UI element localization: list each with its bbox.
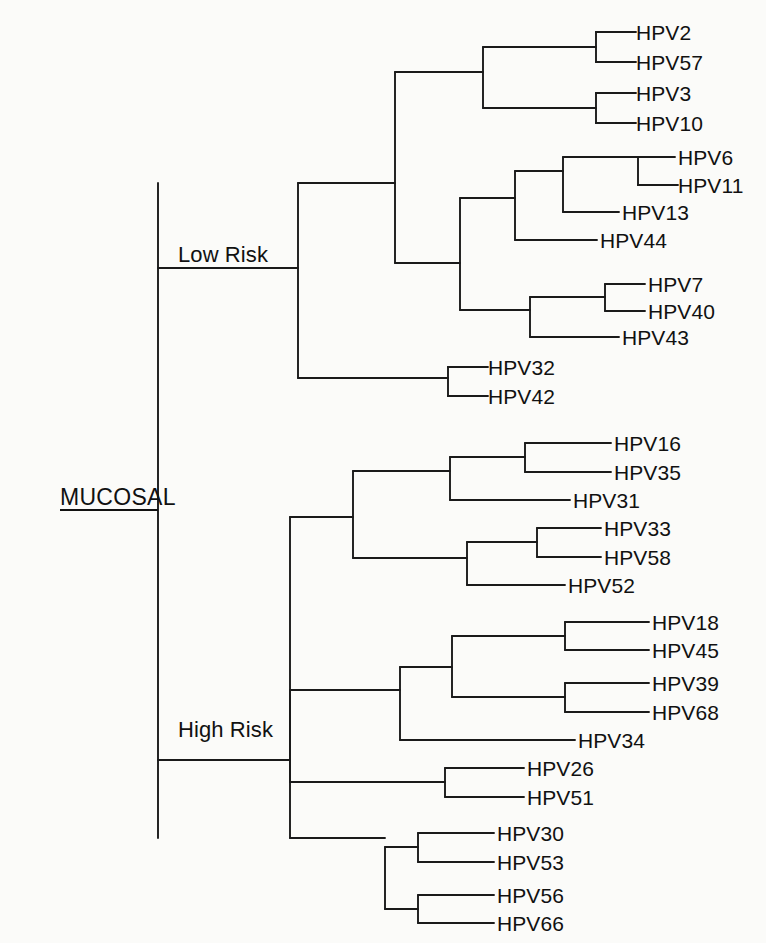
leaf-label: HPV32 bbox=[488, 357, 555, 378]
node-label-low-risk: Low Risk bbox=[178, 244, 268, 266]
node-label-high-risk: High Risk bbox=[178, 719, 273, 741]
leaf-label: HPV16 bbox=[614, 433, 681, 454]
leaf-label: HPV39 bbox=[652, 673, 719, 694]
leaf-label: HPV68 bbox=[652, 702, 719, 723]
leaf-label: HPV40 bbox=[648, 301, 715, 322]
leaf-label: HPV13 bbox=[622, 202, 689, 223]
leaf-label: HPV51 bbox=[527, 787, 594, 808]
leaf-label: HPV31 bbox=[573, 490, 640, 511]
leaf-label: HPV45 bbox=[652, 640, 719, 661]
leaf-label: HPV53 bbox=[497, 852, 564, 873]
leaf-label: HPV35 bbox=[614, 462, 681, 483]
leaf-label: HPV43 bbox=[622, 327, 689, 348]
phylogenetic-tree-figure: MUCOSAL Low Risk High Risk HPV2HPV57HPV3… bbox=[0, 0, 766, 943]
root-label-mucosal: MUCOSAL bbox=[60, 486, 176, 509]
leaf-label: HPV34 bbox=[578, 730, 645, 751]
leaf-label: HPV3 bbox=[636, 83, 691, 104]
leaf-label: HPV30 bbox=[497, 823, 564, 844]
leaf-label: HPV56 bbox=[497, 885, 564, 906]
leaf-label: HPV7 bbox=[648, 274, 703, 295]
leaf-label: HPV26 bbox=[527, 758, 594, 779]
leaf-label: HPV66 bbox=[497, 913, 564, 934]
leaf-label: HPV44 bbox=[600, 230, 667, 251]
leaf-label: HPV42 bbox=[488, 386, 555, 407]
leaf-label: HPV11 bbox=[678, 175, 743, 196]
leaf-label: HPV52 bbox=[568, 575, 635, 596]
leaf-label: HPV10 bbox=[636, 113, 703, 134]
leaf-label: HPV18 bbox=[652, 612, 719, 633]
leaf-label: HPV58 bbox=[604, 547, 671, 568]
leaf-label: HPV57 bbox=[636, 52, 703, 73]
leaf-label: HPV6 bbox=[678, 147, 733, 168]
leaf-label: HPV2 bbox=[636, 22, 691, 43]
leaf-label: HPV33 bbox=[604, 518, 671, 539]
